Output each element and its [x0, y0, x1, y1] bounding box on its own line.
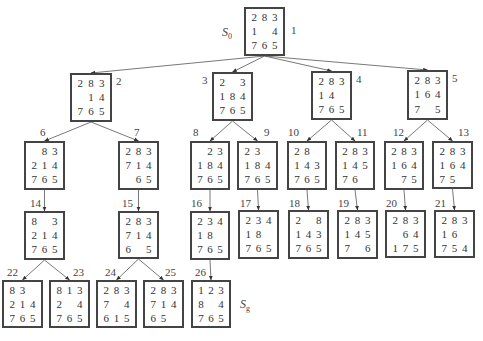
tile: 6 [133, 173, 143, 187]
tile: 4 [326, 88, 336, 102]
puzzle-board-11: 28314576 [335, 141, 375, 190]
tile: 2 [54, 297, 64, 311]
tile: 1 [111, 311, 121, 325]
blank-tile [111, 297, 121, 311]
tile: 8 [7, 283, 17, 297]
tile: 4 [238, 89, 248, 103]
tile: 6 [205, 243, 215, 257]
tile: 4 [352, 227, 362, 241]
tile: 8 [54, 283, 64, 297]
tile: 5 [363, 227, 373, 241]
tile: 7 [342, 242, 352, 256]
puzzle-board-25: 28371465 [143, 280, 184, 328]
tile: 4 [409, 158, 419, 172]
tree-edge [45, 260, 70, 280]
tree-edge [307, 190, 309, 210]
tile: 3 [337, 74, 347, 88]
tile: 8 [449, 213, 459, 227]
tile: 6 [39, 243, 49, 257]
tile: 4 [350, 158, 360, 172]
puzzle-board-13: 28316475 [432, 141, 473, 189]
tile: 5 [144, 173, 154, 187]
tile: 5 [314, 242, 324, 256]
tile: 2 [205, 144, 215, 158]
blank-tile [460, 227, 470, 241]
tile: 2 [243, 213, 253, 227]
tree-edge [210, 121, 233, 141]
tile: 8 [205, 228, 215, 242]
tile: 4 [263, 158, 273, 172]
puzzle-board-12: 28316475 [384, 141, 424, 190]
node-order-label: 2 [116, 76, 122, 87]
tile: 7 [439, 241, 449, 255]
tile: 5 [50, 173, 60, 187]
puzzle-board-7: 28371465 [118, 141, 159, 190]
tile: 3 [270, 10, 280, 24]
tile: 1 [243, 227, 253, 241]
puzzle-board-21: 28316754 [434, 210, 475, 258]
node-order-label: 18 [289, 198, 300, 209]
tile: 4 [50, 228, 60, 242]
puzzle-board-2: 28314765 [70, 73, 112, 122]
tile: 2 [195, 214, 205, 228]
tile: 3 [253, 213, 263, 227]
tile: 5 [28, 311, 38, 325]
tile: 3 [144, 144, 154, 158]
puzzle-board-23: 81324765 [49, 280, 90, 328]
tile: 6 [399, 158, 409, 172]
node-order-label: 5 [452, 73, 458, 84]
tile: 4 [144, 228, 154, 242]
node-order-label: 17 [240, 198, 251, 209]
tile: 2 [437, 144, 447, 158]
blank-tile [458, 172, 468, 186]
tile: 6 [123, 242, 133, 256]
tile: 3 [460, 213, 470, 227]
tree-edge [265, 56, 428, 70]
node-order-label: 26 [195, 267, 206, 278]
tile: 7 [249, 39, 259, 53]
node-order-label: 22 [7, 267, 18, 278]
tile: 5 [409, 173, 419, 187]
tile: 8 [205, 158, 215, 172]
tile: 1 [195, 158, 205, 172]
tile: 8 [302, 144, 312, 158]
node-order-label: 10 [288, 127, 299, 138]
tile: 5 [433, 102, 443, 117]
tile: 5 [263, 173, 273, 187]
tile: 1 [133, 228, 143, 242]
tile: 2 [342, 213, 352, 227]
tile: 3 [50, 144, 60, 158]
puzzle-board-4: 28314765 [311, 71, 352, 120]
tile: 3 [144, 214, 154, 228]
tile: 7 [437, 172, 447, 186]
tree-edge [233, 121, 258, 141]
puzzle-board-8: 23184765 [190, 141, 230, 190]
tile: 1 [17, 297, 27, 311]
tile: 8 [252, 158, 262, 172]
tile: 2 [123, 214, 133, 228]
tile: 3 [411, 213, 421, 227]
tile: 4 [122, 297, 132, 311]
tile: 4 [144, 158, 154, 172]
tile: 2 [390, 213, 400, 227]
tile: 4 [458, 158, 468, 172]
tile: 2 [217, 75, 227, 89]
tile: 6 [302, 173, 312, 187]
tile: 7 [7, 311, 17, 325]
tile: 8 [326, 74, 336, 88]
tile: 1 [86, 90, 97, 104]
tile: 8 [227, 89, 237, 103]
tile: 7 [412, 102, 422, 117]
tile: 8 [133, 214, 143, 228]
tile: 4 [302, 158, 312, 172]
puzzle-board-26: 12384765 [191, 280, 231, 328]
tile: 1 [389, 158, 399, 172]
tree-edge [91, 122, 139, 141]
tile: 1 [439, 227, 449, 241]
blank-tile [227, 75, 237, 89]
node-order-label: 21 [435, 198, 446, 209]
goal-state-label: Sg [240, 297, 250, 313]
tile: 8 [352, 213, 362, 227]
tile: 3 [75, 283, 85, 297]
tree-edge [258, 190, 259, 210]
